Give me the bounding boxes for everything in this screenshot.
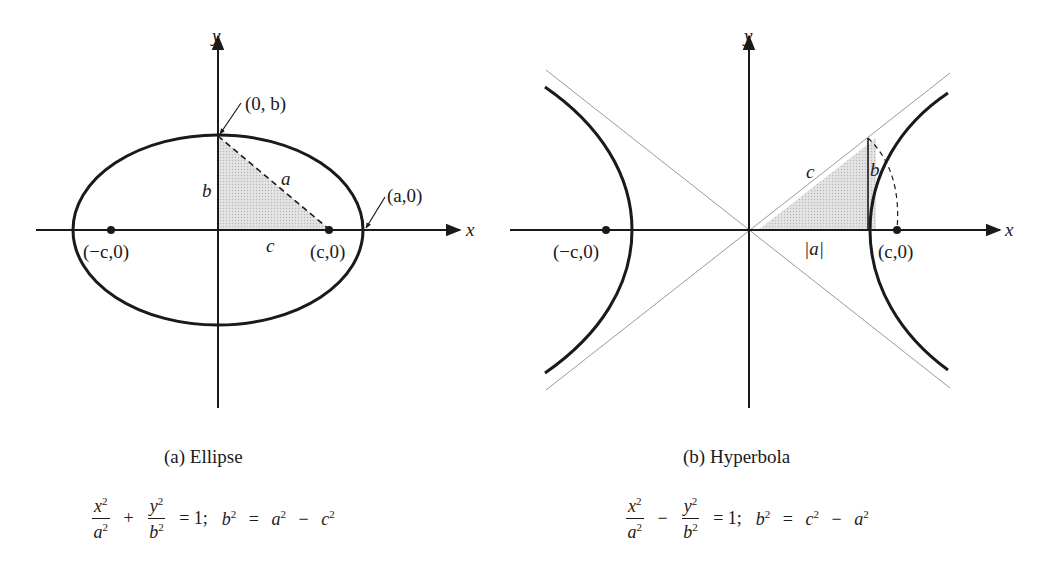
equals-one: = 1; [713,508,742,529]
fraction-y2-b2: y2 b2 [148,496,166,541]
focus-right-point [893,226,901,234]
equals-one: = 1; [179,508,208,529]
vertex-right-label: (a,0) [387,185,422,207]
pointer-arrow-top [220,103,241,134]
y-axis-label: y [210,25,221,46]
fraction-x2-a2: x2 a2 [626,496,644,541]
vertex-top-label: (0, b) [245,93,286,115]
fraction-y2-b2: y2 b2 [682,496,700,541]
hyperbola-right-branch [870,93,948,370]
plus-operator: + [124,508,134,529]
minus-operator: − [658,508,668,529]
ellipse-equation: x2 a2 + y2 b2 = 1; b2 = a2 − c2 [86,496,335,541]
side-a-label: a [281,168,291,189]
side-b-label: b [870,159,880,180]
y-axis-label: y [742,25,753,46]
fraction-x2-a2: x2 a2 [92,496,110,541]
side-a-label: |a| [804,238,824,259]
x-axis-label: x [465,219,475,240]
hyperbola-caption: (b) Hyperbola [683,446,790,468]
focus-left-label: (−c,0) [553,241,599,263]
conic-sections-diagram: y x (0, b) (a,0) (−c,0) (c,0) b a c y x … [0,0,1045,566]
shaded-triangle [758,138,876,230]
side-c-label: c [806,161,815,182]
pointer-arrow-right [366,197,385,228]
x-axis-label: x [1004,219,1014,240]
hyperbola-equation: x2 a2 − y2 b2 = 1; b2 = c2 − a2 [620,496,869,541]
focus-left-label: (−c,0) [83,241,129,263]
focus-right-label: (c,0) [878,241,913,263]
side-b-label: b [202,180,212,201]
ellipse-caption: (a) Ellipse [164,446,243,468]
relation: b2 = c2 − a2 [756,508,869,530]
hyperbola-figure: y x (−c,0) (c,0) c b |a| [510,25,1014,408]
relation: b2 = a2 − c2 [222,508,335,530]
ellipse-figure: y x (0, b) (a,0) (−c,0) (c,0) b a c [36,25,475,408]
focus-left-point [107,226,115,234]
focus-right-point [325,226,333,234]
side-c-label: c [266,235,275,256]
focus-right-label: (c,0) [310,241,345,263]
focus-left-point [602,226,610,234]
